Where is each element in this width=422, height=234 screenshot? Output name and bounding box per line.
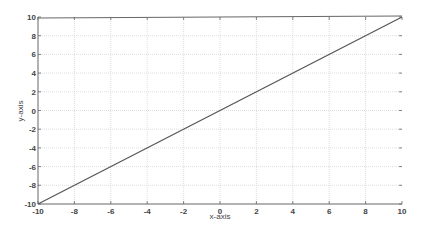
x-tick-label: 2 [254,207,259,216]
x-tick-label: 4 [291,207,296,216]
x-tick-label: -2 [180,207,188,216]
x-tick-label: -6 [107,207,115,216]
y-tick-label: 6 [32,50,37,59]
y-tick-label: 2 [32,88,37,97]
chart-background [0,0,422,234]
x-tick-label: -8 [71,207,79,216]
x-tick-label: -4 [144,207,152,216]
y-tick-label: 4 [32,69,37,78]
line-chart: -10-8-6-4-20246810 -10-8-6-4-20246810 x-… [0,0,422,234]
y-tick-label: -10 [24,200,36,209]
x-tick-label: 6 [327,207,332,216]
x-tick-label: 8 [363,207,368,216]
y-tick-label: -8 [29,181,37,190]
y-tick-label: 10 [27,13,36,22]
y-tick-label: -6 [29,163,37,172]
x-axis-label: x-axis [210,212,231,221]
y-tick-label: -2 [29,125,37,134]
y-tick-label: -4 [29,144,37,153]
y-tick-label: 0 [32,107,37,116]
y-tick-label: 8 [32,32,37,41]
x-tick-label: 10 [398,207,407,216]
y-axis-label: y-axis [16,101,25,122]
